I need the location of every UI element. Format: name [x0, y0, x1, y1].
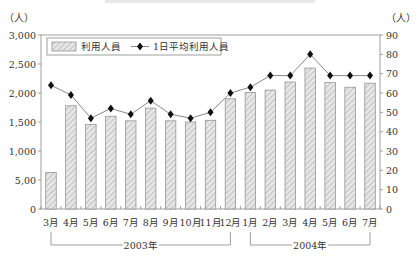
- bar: [86, 124, 97, 209]
- right-tick-label: 60: [386, 88, 398, 99]
- bar: [205, 120, 216, 209]
- diamond-marker-icon: [208, 108, 214, 116]
- left-axis: 05,001,0001,5002,0002,5003,000: [9, 30, 41, 215]
- diamond-marker-icon: [347, 72, 353, 80]
- bar: [145, 108, 156, 209]
- x-tick-label: 6月: [342, 217, 358, 228]
- diamond-marker-icon: [247, 83, 253, 91]
- bar: [365, 83, 376, 209]
- left-tick-label: 2,000: [9, 88, 36, 99]
- x-tick-label: 3月: [43, 217, 59, 228]
- legend-label-line: 1日平均利用人員: [153, 41, 229, 52]
- right-tick-label: 20: [386, 165, 398, 176]
- x-tick-label: 5月: [83, 217, 99, 228]
- right-tick-label: 0: [386, 204, 392, 215]
- diamond-marker-icon: [188, 114, 194, 122]
- left-tick-label: 3,000: [9, 30, 36, 41]
- x-tick-label: 8月: [143, 217, 159, 228]
- right-tick-label: 30: [386, 146, 398, 157]
- line-series-daily-average: [48, 50, 373, 122]
- left-axis-unit: （人）: [4, 13, 34, 24]
- x-axis-labels: 3月4月5月6月7月8月9月10月11月12月1月2月3月4月5月6月7月: [43, 217, 378, 228]
- right-axis: 0102030405060708090: [380, 30, 398, 215]
- bar: [66, 106, 77, 209]
- x-tick-label: 4月: [302, 217, 318, 228]
- diamond-marker-icon: [168, 110, 174, 118]
- left-tick-label: 5,00: [15, 175, 36, 186]
- bar: [106, 116, 117, 209]
- bar: [245, 92, 256, 209]
- diamond-marker-icon: [128, 110, 134, 118]
- year-brackets: 2003年2004年: [51, 232, 370, 251]
- right-axis-unit: （人）: [386, 13, 416, 24]
- x-tick-label: 4月: [63, 217, 79, 228]
- diamond-marker-icon: [148, 97, 154, 105]
- legend-label-bar: 利用人員: [81, 41, 121, 52]
- left-tick-label: 1,000: [9, 146, 36, 157]
- bar: [305, 68, 316, 209]
- left-tick-label: 1,500: [9, 117, 36, 128]
- bar: [165, 121, 176, 209]
- bar-series-riyo-jinin: [46, 68, 376, 209]
- legend: 利用人員1日平均利用人員: [47, 38, 229, 55]
- bar: [46, 172, 57, 209]
- bar: [225, 99, 236, 209]
- right-tick-label: 90: [386, 30, 398, 41]
- diamond-marker-icon: [227, 89, 233, 97]
- bar: [125, 121, 136, 209]
- combo-chart: （人） （人） 05,001,0001,5002,0002,5003,000 0…: [0, 0, 418, 257]
- x-tick-label: 1月: [242, 217, 258, 228]
- year-label: 2004年: [293, 240, 327, 251]
- diamond-marker-icon: [267, 72, 273, 80]
- x-tick-label: 6月: [103, 217, 119, 228]
- year-label: 2003年: [124, 240, 158, 251]
- x-tick-label: 3月: [282, 217, 298, 228]
- right-tick-label: 80: [386, 49, 398, 60]
- x-tick-label: 5月: [322, 217, 338, 228]
- right-axis-unit-label: （人）: [386, 13, 416, 24]
- x-tick-label: 9月: [163, 217, 179, 228]
- left-tick-label: 0: [30, 204, 36, 215]
- bar: [265, 90, 276, 209]
- x-tick-label: 7月: [362, 217, 378, 228]
- bar: [285, 82, 296, 209]
- bar: [185, 122, 196, 209]
- x-tick-label: 2月: [262, 217, 278, 228]
- right-tick-label: 50: [386, 107, 398, 118]
- bar: [325, 83, 336, 209]
- left-axis-unit-label: （人）: [4, 13, 34, 24]
- x-tick-label: 7月: [123, 217, 139, 228]
- right-tick-label: 70: [386, 68, 398, 79]
- right-tick-label: 40: [386, 126, 398, 137]
- left-tick-label: 2,500: [9, 59, 36, 70]
- legend-bar-swatch-icon: [52, 42, 76, 51]
- x-tick-label: 11月: [199, 217, 221, 228]
- bar: [345, 87, 356, 209]
- x-tick-label: 12月: [219, 217, 241, 228]
- right-tick-label: 10: [386, 184, 398, 195]
- diamond-marker-icon: [108, 104, 114, 112]
- diamond-marker-icon: [48, 81, 54, 89]
- x-tick-label: 10月: [180, 217, 202, 228]
- diamond-marker-icon: [367, 72, 373, 80]
